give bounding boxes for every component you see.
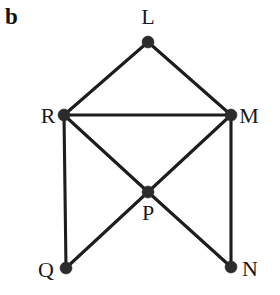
- graph-node-m: [225, 109, 237, 121]
- graph-node-label-r: R: [41, 103, 56, 128]
- graph-edge-l-r: [64, 42, 148, 115]
- graph-node-n: [225, 261, 237, 273]
- graph-nodes-layer: [58, 36, 237, 274]
- figure-panel: b LRMPQN: [0, 0, 280, 295]
- graph-edge-m-p: [148, 115, 231, 192]
- graph-node-label-q: Q: [38, 257, 54, 282]
- graph-edge-p-n: [148, 192, 231, 267]
- graph-node-label-n: N: [242, 256, 258, 281]
- graph-edge-r-p: [64, 115, 148, 192]
- graph-node-label-l: L: [141, 4, 154, 29]
- graph-node-label-p: P: [142, 200, 154, 225]
- graph-node-r: [58, 109, 70, 121]
- graph-diagram: LRMPQN: [0, 0, 280, 295]
- graph-node-q: [60, 262, 72, 274]
- graph-node-label-m: M: [239, 103, 259, 128]
- graph-node-l: [142, 36, 154, 48]
- graph-edges-layer: [64, 42, 231, 268]
- graph-edge-l-m: [148, 42, 231, 115]
- graph-node-p: [142, 186, 154, 198]
- graph-edge-p-q: [66, 192, 148, 268]
- graph-edge-r-q: [64, 115, 66, 268]
